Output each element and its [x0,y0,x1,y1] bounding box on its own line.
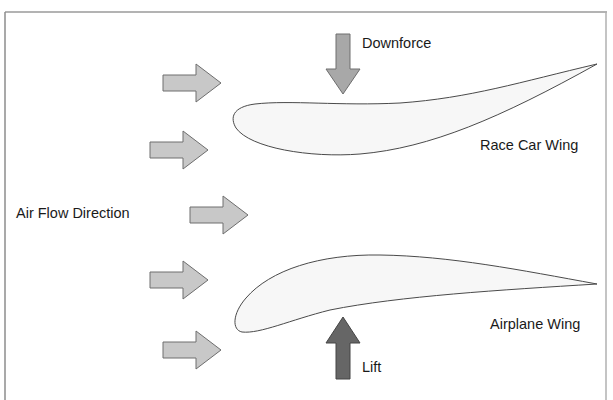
flow-arrow-icon [150,131,208,169]
flow-arrows [150,64,248,369]
air-flow-direction-label: Air Flow Direction [16,205,130,221]
flow-arrow-icon [190,196,248,234]
lift-arrow-icon [326,317,360,379]
race-car-wing-label: Race Car Wing [480,137,578,153]
airfoil-diagram [0,0,613,400]
airplane-wing-label: Airplane Wing [490,316,580,332]
downforce-label: Downforce [362,35,431,51]
downforce-arrow-icon [326,34,360,94]
flow-arrow-icon [163,64,221,102]
lift-label: Lift [362,359,381,375]
flow-arrow-icon [163,331,221,369]
flow-arrow-icon [150,261,208,299]
